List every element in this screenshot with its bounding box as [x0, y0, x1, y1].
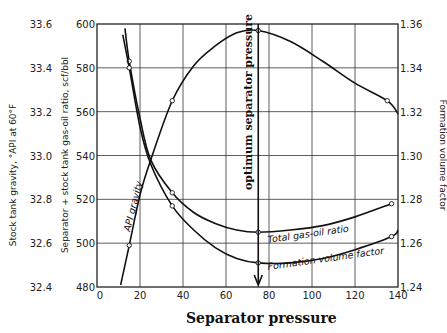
left-outer-axis-title: Stock tank gravity, °API at 60°F	[8, 104, 18, 247]
x-axis-ticks: 020406080100120140	[97, 290, 408, 301]
left-outer-tick-label: 33.4	[30, 63, 52, 74]
x-tick-label: 80	[263, 290, 276, 301]
chart: 020406080100120140 33.633.433.233.032.83…	[0, 0, 447, 333]
x-axis-title: Separator pressure	[186, 310, 337, 326]
left-inner-tick-label: 560	[76, 107, 95, 118]
left-inner-tick-label: 540	[76, 151, 95, 162]
right-tick-label: 1.30	[400, 151, 422, 162]
left-outer-tick-label: 33.6	[30, 19, 52, 30]
data-point-marker	[127, 66, 131, 70]
api-gravity-label: API gravity	[121, 180, 144, 234]
left-inner-tick-label: 580	[76, 63, 95, 74]
left-inner-tick-label: 600	[76, 19, 95, 30]
x-tick-label: 20	[134, 290, 147, 301]
data-point-marker	[170, 99, 174, 103]
right-axis-ticks: 1.361.341.321.301.281.261.24	[400, 19, 422, 293]
right-axis-title: Formation volume factor	[438, 100, 447, 211]
x-tick-label: 0	[97, 290, 103, 301]
left-inner-tick-label: 520	[76, 194, 95, 205]
right-tick-label: 1.26	[400, 238, 422, 249]
data-point-marker	[389, 202, 393, 206]
optimum-pressure-label: optimum separator pressure	[242, 14, 255, 190]
left-outer-tick-label: 33.2	[30, 107, 52, 118]
right-tick-label: 1.36	[400, 19, 422, 30]
right-tick-label: 1.24	[400, 282, 422, 293]
data-point-marker	[385, 99, 389, 103]
data-point-marker	[170, 204, 174, 208]
right-tick-label: 1.28	[400, 194, 422, 205]
left-inner-axis-title: Separator + stock tank gas-oil ratio, sc…	[60, 57, 70, 253]
left-inner-tick-label: 480	[76, 282, 95, 293]
fvf-label: Formation volume factor	[267, 245, 386, 272]
left-outer-tick-label: 32.6	[30, 238, 52, 249]
right-tick-label: 1.34	[400, 63, 422, 74]
optimum-pressure-line	[254, 24, 262, 285]
left-outer-tick-label: 33.0	[30, 151, 52, 162]
x-tick-label: 120	[345, 290, 364, 301]
left-outer-axis-ticks: 33.633.433.233.032.832.632.4	[30, 19, 52, 293]
x-tick-label: 40	[177, 290, 190, 301]
left-inner-axis-ticks: 600580560540520500480	[76, 19, 95, 293]
total-gor-label: Total gas-oil ratio	[267, 223, 350, 245]
right-tick-label: 1.32	[400, 107, 422, 118]
curves	[121, 28, 398, 284]
data-point-marker	[170, 191, 174, 195]
left-outer-tick-label: 32.4	[30, 282, 52, 293]
data-point-marker	[127, 243, 131, 247]
series-line	[123, 35, 398, 263]
x-tick-label: 60	[220, 290, 233, 301]
x-tick-label: 100	[302, 290, 321, 301]
data-point-marker	[389, 234, 393, 238]
left-outer-tick-label: 32.8	[30, 194, 52, 205]
left-inner-tick-label: 500	[76, 238, 95, 249]
